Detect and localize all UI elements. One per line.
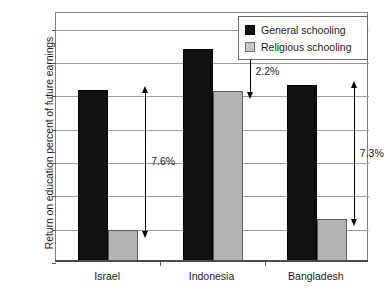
x-axis-tick [265,261,266,266]
x-axis-label-israel: Israel [94,270,120,282]
bar-indonesia-general [183,49,213,261]
y-axis-title: Return on education percent of future ea… [43,0,55,288]
y-axis-tick [52,163,56,164]
legend-swatch-religious-icon [245,42,255,52]
legend-label-general: General schooling [261,24,346,36]
bar-bangladesh-religious [317,219,347,262]
legend-item-religious: Religious schooling [245,38,362,55]
legend-item-general: General schooling [245,21,362,38]
annotation-label-indonesia: 2.2% [256,65,280,77]
bar-chart: Return on education percent of future ea… [0,0,384,294]
bar-israel-religious [108,230,138,261]
y-axis-tick [52,196,56,197]
y-axis-tick [52,263,56,264]
y-axis-tick [52,230,56,231]
bar-bangladesh-general [287,85,317,261]
chart-legend: General schooling Religious schooling [238,16,368,60]
x-axis-label-bangladesh: Bangladesh [288,270,343,282]
bar-indonesia-religious [213,91,243,261]
y-axis-tick [52,96,56,97]
legend-swatch-general-icon [245,25,255,35]
annotation-arrow-israel [145,92,146,232]
x-axis-label-indonesia: Indonesia [189,270,235,282]
y-axis-tick [52,30,56,31]
annotation-arrow-bangladesh [354,87,355,220]
arrow-head-down-icon [142,231,148,238]
arrow-head-down-icon [351,219,357,226]
y-axis-tick [52,63,56,64]
arrow-head-up-icon [142,86,148,93]
gridline [56,63,369,64]
y-axis-tick [52,130,56,131]
annotation-label-bangladesh: 7.3% [360,147,384,159]
annotation-label-israel: 7.6% [151,155,175,167]
arrow-head-down-icon [247,92,253,99]
bar-israel-general [78,90,108,261]
arrow-head-up-icon [351,81,357,88]
x-axis-tick [160,261,161,266]
legend-label-religious: Religious schooling [261,41,351,53]
